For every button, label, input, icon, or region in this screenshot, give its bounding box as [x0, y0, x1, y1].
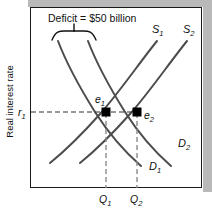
curve-label-d2: D2: [178, 137, 191, 152]
equilibrium-point-e2: [133, 108, 142, 117]
equilibrium-point-e1: [102, 108, 111, 117]
deficit-brace-icon: [52, 24, 96, 40]
deficit-annotation-label: Deficit = $50 billion: [48, 12, 137, 24]
curve-label-s1: S1: [152, 23, 164, 38]
y-tick-label-r1: r1: [18, 106, 26, 121]
x-tick-label-q1: Q1: [99, 193, 111, 208]
x-tick-label-q2: Q2: [130, 193, 143, 208]
equilibrium-label-e2: e2: [144, 109, 155, 124]
curve-label-s2: S2: [183, 23, 195, 38]
curve-label-d1: D1: [149, 160, 161, 175]
equilibrium-label-e1: e1: [95, 93, 105, 108]
supply-demand-chart: Deficit = $50 billion S1 S2 D1 D2: [0, 0, 212, 211]
figure-container: Real interest rate Deficit = $50 billion: [0, 0, 212, 211]
